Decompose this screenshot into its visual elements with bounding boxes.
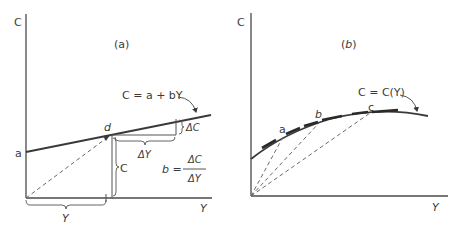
consumption-function-diagram: C Y (a) a C = a + bY d ΔC ΔY C	[0, 0, 457, 228]
intercept-label: a	[15, 147, 22, 160]
panel-b-label: (b)	[341, 38, 357, 51]
delta-y-brace	[115, 137, 175, 145]
panel-a-label: (a)	[114, 38, 129, 51]
linear-consumption-line	[26, 115, 211, 152]
nonlinear-equation-label: C = C(Y)	[358, 86, 405, 99]
ray-arrowhead-icon	[103, 135, 110, 141]
panel-a-x-axis-label: Y	[200, 202, 208, 215]
panel-b-y-axis-label: C	[237, 16, 245, 29]
nonlinear-consumption-curve	[251, 112, 428, 159]
slope-formula-denominator: ΔY	[187, 173, 202, 184]
point-a-label: a	[279, 123, 286, 136]
delta-y-label: ΔY	[137, 149, 152, 160]
slope-formula-numerator: ΔC	[187, 154, 202, 165]
point-d-label: d	[104, 121, 112, 134]
c-height-brace	[113, 138, 119, 196]
y-width-brace	[26, 200, 106, 209]
linear-equation-label: C = a + bY	[122, 89, 183, 102]
tangent-segment	[352, 112, 368, 114]
c-height-label: C	[120, 162, 128, 175]
panel-b: C Y (b) a b c C = C(Y)	[237, 13, 448, 214]
y-width-label: Y	[62, 212, 70, 225]
origin-ray-dashed	[26, 137, 108, 198]
point-c-label: c	[368, 101, 374, 114]
panel-a-y-axis-label: C	[14, 16, 22, 29]
slope-formula-lhs: b =	[162, 163, 182, 176]
panel-a: C Y (a) a C = a + bY d ΔC ΔY C	[14, 14, 212, 225]
delta-c-label: ΔC	[185, 122, 200, 133]
point-b-label: b	[315, 108, 322, 121]
panel-b-x-axis-label: Y	[432, 201, 440, 214]
